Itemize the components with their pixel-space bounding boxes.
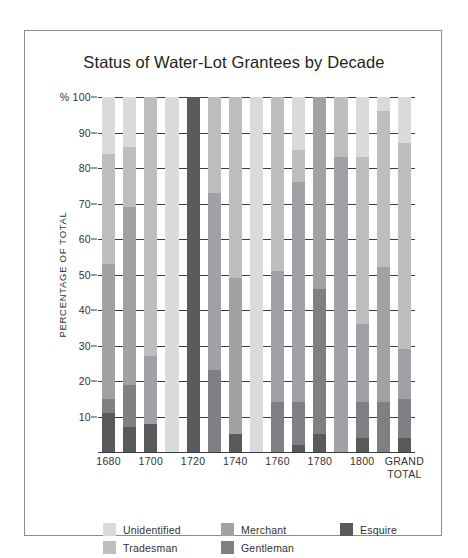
bar-segment-esquire [187, 97, 200, 452]
y-tick-mark-40 [91, 310, 97, 311]
y-tick-label-10: 10 [79, 411, 91, 423]
bar-segment-merchant [377, 267, 390, 402]
x-tick-label-GRAND-TOTAL: GRAND TOTAL [378, 455, 430, 480]
y-tick-label-100: % 100 [60, 91, 91, 103]
legend-label-gentleman: Gentleman [241, 542, 294, 554]
bar-segment-tradesman [208, 97, 221, 193]
bar-segment-merchant [102, 264, 115, 399]
bar-segment-gentleman [313, 289, 326, 435]
bar-segment-merchant [356, 324, 369, 402]
y-axis-title-label: PERCENTAGE OF TOTAL [57, 211, 68, 337]
y-tick-mark-20 [91, 381, 97, 382]
y-tick-mark-30 [91, 345, 97, 346]
y-tick-mark-70 [91, 203, 97, 204]
legend-swatch-merchant [221, 523, 234, 536]
bar-segment-gentleman [271, 402, 284, 452]
legend-swatch-esquire [340, 523, 353, 536]
bar-segment-merchant [208, 193, 221, 371]
y-tick-label-70: 70 [79, 198, 91, 210]
legend-item-gentleman[interactable]: Gentleman [221, 541, 294, 554]
bar-1810[interactable] [377, 97, 390, 452]
bar-segment-esquire [229, 434, 242, 452]
y-tick-label-90: 90 [79, 127, 91, 139]
y-tick-label-40: 40 [79, 304, 91, 316]
bar-1770[interactable] [292, 97, 305, 452]
bar-segment-tradesman [377, 111, 390, 267]
y-tick-label-80: 80 [79, 162, 91, 174]
bar-segment-merchant [123, 207, 136, 385]
bar-segment-merchant [144, 356, 157, 423]
y-axis-title: PERCENTAGE OF TOTAL [55, 97, 69, 452]
bar-1720[interactable] [187, 97, 200, 452]
bar-segment-esquire [313, 434, 326, 452]
bar-1760[interactable] [271, 97, 284, 452]
bar-segment-gentleman [123, 385, 136, 428]
chart-legend: UnidentifiedMerchantEsquireTradesmanGent… [103, 523, 433, 558]
x-axis-labels: 1680170017201740176017801800GRAND TOTAL [98, 455, 415, 489]
bar-1710[interactable] [165, 97, 178, 452]
bar-segment-tradesman [271, 97, 284, 271]
legend-item-merchant[interactable]: Merchant [221, 523, 286, 536]
bar-segment-gentleman [208, 370, 221, 452]
bar-segment-gentleman [398, 399, 411, 438]
legend-item-tradesman[interactable]: Tradesman [103, 541, 178, 554]
legend-label-esquire: Esquire [360, 524, 397, 536]
legend-label-tradesman: Tradesman [123, 542, 178, 554]
legend-swatch-tradesman [103, 541, 116, 554]
bar-segment-merchant [398, 349, 411, 399]
bar-segment-unidentified [165, 97, 178, 452]
bar-segment-tradesman [144, 97, 157, 356]
bar-segment-gentleman [102, 399, 115, 413]
bar-1750[interactable] [250, 97, 263, 452]
bar-segment-merchant [334, 157, 347, 452]
chart-title: Status of Water-Lot Grantees by Decade [25, 53, 443, 72]
legend-label-merchant: Merchant [241, 524, 286, 536]
bar-1740[interactable] [229, 97, 242, 452]
bar-segment-esquire [123, 427, 136, 452]
x-axis-baseline [98, 452, 415, 453]
bar-segment-tradesman [398, 143, 411, 349]
bar-1730[interactable] [208, 97, 221, 452]
bar-segment-esquire [398, 438, 411, 452]
bar-1790[interactable] [334, 97, 347, 452]
y-tick-label-50: 50 [79, 269, 91, 281]
bar-segment-unidentified [250, 97, 263, 452]
bar-segment-unidentified [377, 97, 390, 111]
bar-segment-merchant [271, 271, 284, 402]
bar-segment-tradesman [334, 97, 347, 157]
bar-1800[interactable] [356, 97, 369, 452]
bar-segment-tradesman [123, 147, 136, 207]
bar-1690[interactable] [123, 97, 136, 452]
legend-swatch-gentleman [221, 541, 234, 554]
y-tick-mark-50 [91, 274, 97, 275]
bar-segment-esquire [102, 413, 115, 452]
bar-1680[interactable] [102, 97, 115, 452]
bar-segment-unidentified [123, 97, 136, 147]
bar-segment-tradesman [229, 97, 242, 278]
y-tick-mark-90 [91, 132, 97, 133]
y-tick-label-60: 60 [79, 233, 91, 245]
plot-area: % 100908070605040302010 [98, 97, 415, 452]
legend-label-unidentified: Unidentified [123, 524, 181, 536]
bar-segment-unidentified [356, 97, 369, 157]
bar-segment-unidentified [102, 97, 115, 154]
bar-segment-unidentified [292, 97, 305, 150]
bar-segment-gentleman [356, 402, 369, 438]
chart-figure-frame: Status of Water-Lot Grantees by Decade P… [24, 30, 442, 536]
bar-segment-merchant [292, 182, 305, 402]
bar-segment-unidentified [398, 97, 411, 143]
bar-segment-merchant [229, 278, 242, 434]
legend-item-unidentified[interactable]: Unidentified [103, 523, 181, 536]
y-tick-label-20: 20 [79, 375, 91, 387]
bar-1780[interactable] [313, 97, 326, 452]
bar-segment-esquire [292, 445, 305, 452]
bar-segment-esquire [144, 424, 157, 452]
y-tick-mark-10 [91, 416, 97, 417]
bar-segment-tradesman [102, 154, 115, 264]
bar-segment-gentleman [377, 402, 390, 452]
legend-item-esquire[interactable]: Esquire [340, 523, 397, 536]
bar-segment-esquire [356, 438, 369, 452]
bar-segment-tradesman [356, 157, 369, 324]
bar-1700[interactable] [144, 97, 157, 452]
bar-GRAND-TOTAL[interactable] [398, 97, 411, 452]
